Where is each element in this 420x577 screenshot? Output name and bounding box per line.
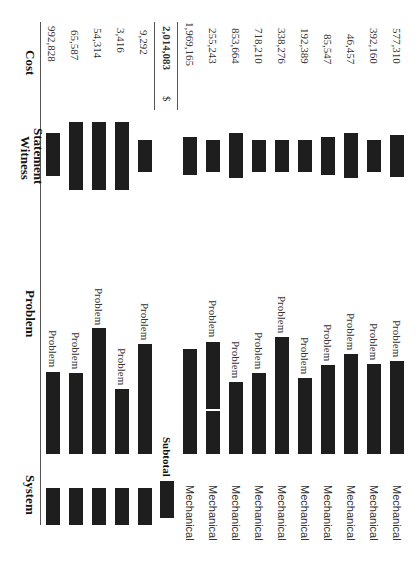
cost-cell: 992,828: [46, 26, 58, 62]
cost-cell: 85,547: [322, 34, 334, 64]
redacted-problem-bar: [69, 373, 83, 454]
header-cost: Cost: [22, 50, 38, 75]
system-cell: Mechanical: [391, 485, 403, 541]
redacted-problem-bar: [298, 378, 312, 454]
redacted-witness: [229, 133, 243, 178]
cost-cell: 577,310: [391, 28, 403, 64]
redacted-witness: [390, 135, 404, 177]
problem-label: Problem: [116, 348, 128, 385]
cost-cell: 392,160: [368, 28, 380, 64]
subtotal-rule-top: [154, 22, 155, 110]
redacted-witness: [46, 133, 60, 176]
problem-label: Problem: [93, 288, 105, 325]
problem-label: Problem: [253, 332, 265, 369]
system-cell: Mechanical: [345, 485, 357, 541]
cost-cell: 718,210: [253, 28, 265, 64]
system-cell: Mechanical: [230, 485, 242, 541]
redacted-witness: [69, 122, 83, 190]
subtotal-rule-bottom: [177, 22, 178, 110]
redacted-witness: [275, 140, 289, 172]
header-rule: [40, 22, 41, 525]
problem-label: Problem: [47, 330, 59, 367]
redacted-problem-bar: [183, 349, 197, 454]
cost-cell: 338,276: [276, 28, 288, 64]
redacted-problem-bar: [367, 364, 381, 454]
problem-label: Problem: [299, 337, 311, 374]
redacted-witness: [367, 140, 381, 172]
problem-label: Problem: [139, 303, 151, 340]
redacted-system: [46, 488, 60, 525]
redacted-problem-bar: [252, 373, 266, 454]
redacted-witness: [321, 137, 335, 175]
system-cell: Mechanical: [368, 485, 380, 541]
header-system: System: [22, 475, 38, 515]
redacted-problem-bar-bottom: [206, 411, 220, 454]
redacted-witness: [206, 140, 220, 172]
system-cell: Mechanical: [299, 485, 311, 541]
system-cell: Mechanical: [322, 485, 334, 541]
cost-cell: 255,243: [207, 28, 219, 64]
problem-label: Problem: [322, 324, 334, 361]
problem-label: Problem: [230, 341, 242, 378]
cost-cell: 46,457: [345, 34, 357, 64]
header-problem: Problem: [22, 290, 38, 337]
problem-label: Problem: [70, 332, 82, 369]
redacted-problem-bar: [92, 328, 106, 454]
redacted-problem-bar: [138, 344, 152, 454]
redacted-problem-bar: [46, 372, 60, 454]
system-cell: Mechanical: [207, 485, 219, 541]
problem-label: Problem: [276, 296, 288, 333]
cost-cell: 3,416: [115, 28, 127, 53]
redacted-system: [138, 488, 152, 525]
redacted-system: [69, 488, 83, 525]
system-cell: Mechanical: [253, 485, 265, 541]
redacted-witness: [183, 137, 197, 175]
system-cell: Mechanical: [276, 485, 288, 541]
problem-label: Problem: [207, 300, 219, 337]
problem-label: Problem: [368, 323, 380, 360]
redacted-problem-bar: [321, 365, 335, 454]
subtotal-value: 2,014,083: [161, 26, 173, 70]
cost-cell: 54,314: [92, 28, 104, 58]
cost-cell: 192,389: [299, 28, 311, 64]
redacted-system: [92, 488, 106, 525]
problem-label: Problem: [345, 313, 357, 350]
redacted-witness: [298, 140, 312, 172]
header-witness-line2: Statement: [30, 128, 46, 184]
redacted-witness: [344, 133, 358, 178]
redacted-witness: [92, 122, 106, 190]
redacted-problem-bar-top: [206, 342, 220, 409]
redacted-problem-bar: [229, 382, 243, 454]
cost-cell: 9,292: [138, 30, 150, 55]
redacted-problem-bar: [344, 354, 358, 454]
cost-cell: 853,664: [230, 28, 242, 64]
redacted-problem-bar: [390, 361, 404, 454]
redacted-subtotal-system: [160, 481, 174, 518]
system-cell: Mechanical: [184, 485, 196, 541]
redacted-witness: [138, 140, 152, 172]
redacted-problem-bar: [115, 389, 129, 454]
redacted-witness: [115, 122, 129, 190]
redacted-witness: [252, 140, 266, 172]
redacted-problem-bar: [275, 337, 289, 454]
cost-cell: 1,969,165: [184, 22, 196, 66]
subtotal-currency: $: [161, 96, 173, 102]
cost-cell: 65,587: [69, 30, 81, 60]
problem-label: Problem: [391, 320, 403, 357]
subtotal-label: Subtotal: [161, 437, 173, 477]
redacted-system: [115, 488, 129, 525]
